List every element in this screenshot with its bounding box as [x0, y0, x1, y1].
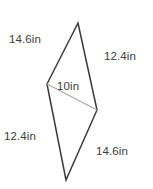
side-label-bottom-left: 12.4in	[4, 131, 36, 143]
side-label-top-right: 12.4in	[104, 51, 136, 63]
kite-outline	[47, 23, 97, 180]
geometry-figure: 14.6in 12.4in 10in 12.4in 14.6in	[0, 0, 153, 189]
diagonal-label: 10in	[57, 81, 79, 93]
kite-shape-svg	[0, 0, 153, 189]
side-label-bottom-right: 14.6in	[96, 146, 128, 158]
side-label-top-left: 14.6in	[9, 34, 41, 46]
